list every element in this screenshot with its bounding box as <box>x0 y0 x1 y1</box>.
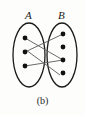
set-b-point-2 <box>61 45 66 50</box>
set-a-point-2 <box>23 50 28 55</box>
set-a-points <box>23 36 28 69</box>
set-b-point-4 <box>61 71 66 76</box>
figure-caption: (b) <box>0 96 85 106</box>
set-b-point-1 <box>61 32 66 37</box>
set-a-point-3 <box>23 64 28 69</box>
figure-container: A B (b) <box>0 0 85 115</box>
set-a-ellipse <box>13 23 45 87</box>
set-b-label: B <box>58 10 65 21</box>
set-a-label: A <box>25 10 32 21</box>
set-a-point-1 <box>23 36 28 41</box>
set-b-point-3 <box>61 58 66 63</box>
set-b-points <box>61 32 66 76</box>
